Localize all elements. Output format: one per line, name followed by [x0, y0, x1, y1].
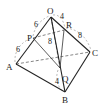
length-OQ: 8	[48, 37, 52, 46]
label-P: P	[27, 33, 32, 43]
label-C: C	[92, 48, 98, 58]
label-Q: Q	[62, 74, 69, 84]
label-B: B	[62, 95, 68, 105]
edge-BC	[65, 52, 90, 92]
length-QB: 4	[55, 77, 59, 86]
label-A: A	[6, 62, 13, 72]
length-OR: 4	[60, 12, 64, 21]
length-RC: 8	[78, 31, 82, 40]
tetrahedron-diagram: O P R C A Q B 6 6 4 8 8 4	[0, 0, 105, 112]
edge-AC-hidden	[16, 52, 90, 64]
label-O: O	[47, 6, 54, 16]
length-PA: 6	[16, 45, 20, 54]
label-R: R	[66, 20, 72, 30]
length-OP: 6	[34, 20, 38, 29]
segment-RQ	[60, 30, 64, 68]
